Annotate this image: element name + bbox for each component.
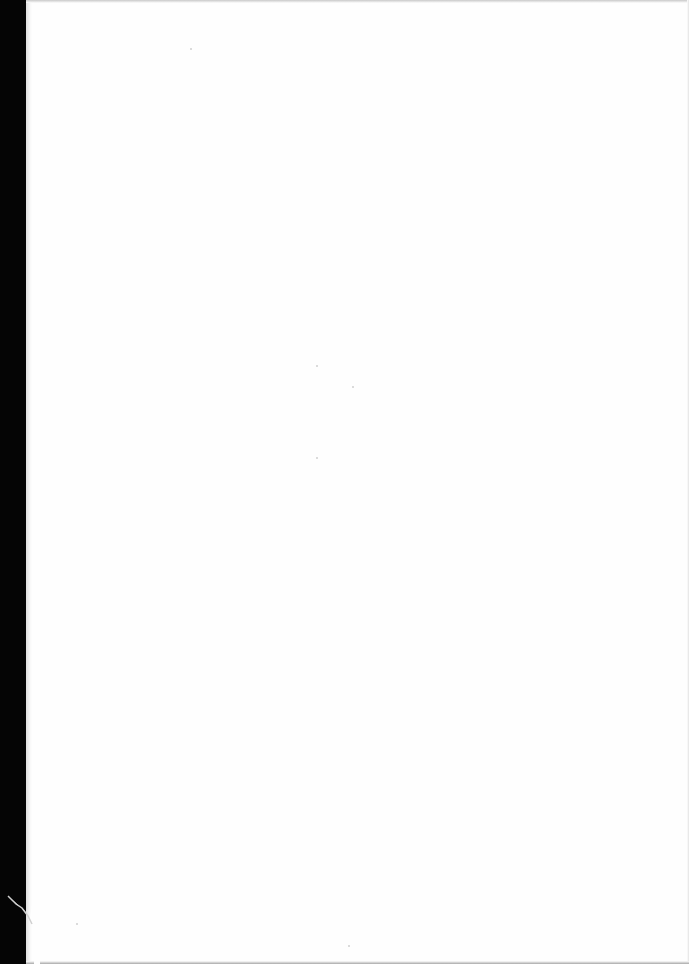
dust-speck — [348, 945, 350, 947]
dust-speck — [352, 386, 354, 388]
dust-speck — [316, 365, 318, 367]
curled-corner-icon — [0, 890, 40, 964]
dust-speck — [190, 48, 192, 50]
dust-speck — [316, 457, 318, 459]
blank-page — [26, 0, 689, 964]
dust-speck — [76, 923, 78, 925]
scanner-background — [0, 0, 26, 964]
page-top-edge — [26, 0, 689, 3]
